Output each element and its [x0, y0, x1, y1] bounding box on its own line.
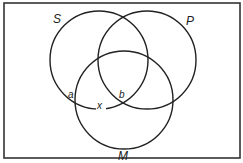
label-s: S: [53, 12, 61, 26]
point-b-label: b: [119, 89, 125, 100]
point-a-label: a: [68, 89, 74, 100]
universe-frame: [4, 3, 240, 158]
venn-diagram: S P M a b x: [0, 0, 243, 163]
point-x-label: x: [96, 100, 103, 111]
label-m: M: [118, 149, 128, 163]
label-p: P: [186, 14, 194, 28]
